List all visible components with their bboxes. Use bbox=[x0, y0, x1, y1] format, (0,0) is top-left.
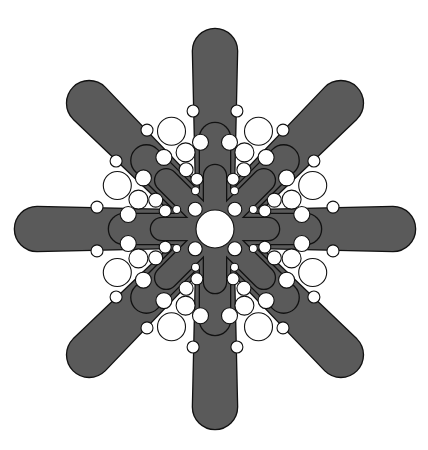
gap-circle bbox=[235, 296, 254, 315]
side-circle bbox=[110, 291, 122, 303]
side-circle bbox=[327, 201, 339, 213]
side-circle bbox=[91, 245, 103, 257]
gap-circle bbox=[192, 187, 200, 195]
gap-circle bbox=[249, 245, 257, 253]
gap-circle bbox=[103, 172, 131, 200]
side-circle bbox=[222, 308, 238, 324]
gap-circle bbox=[149, 193, 163, 207]
gap-circle bbox=[282, 190, 301, 209]
gap-circle bbox=[173, 245, 181, 253]
gap-circle bbox=[282, 249, 301, 268]
side-circle bbox=[279, 170, 295, 186]
gap-circle bbox=[245, 117, 273, 145]
gap-circle bbox=[299, 259, 327, 287]
side-circle bbox=[277, 322, 289, 334]
gap-circle bbox=[231, 187, 239, 195]
side-circle bbox=[294, 236, 310, 252]
side-circle bbox=[91, 201, 103, 213]
gap-circle bbox=[158, 117, 186, 145]
gap-circle bbox=[259, 205, 271, 217]
gap-circle bbox=[179, 163, 193, 177]
side-circle bbox=[222, 134, 238, 150]
side-circle bbox=[120, 207, 136, 223]
gap-circle bbox=[129, 190, 148, 209]
star-canvas bbox=[0, 0, 428, 450]
gap-circle bbox=[237, 163, 251, 177]
side-circle bbox=[279, 272, 295, 288]
gap-circle bbox=[176, 143, 195, 162]
side-circle bbox=[231, 105, 243, 117]
side-circle bbox=[156, 293, 172, 309]
gap-circle bbox=[259, 241, 271, 253]
gap-circle bbox=[237, 281, 251, 295]
gap-circle bbox=[227, 173, 239, 185]
side-circle bbox=[277, 124, 289, 136]
side-circle bbox=[120, 236, 136, 252]
gap-circle bbox=[129, 249, 148, 268]
gap-circle bbox=[103, 259, 131, 287]
side-circle bbox=[156, 149, 172, 165]
gap-circle bbox=[158, 313, 186, 341]
gap-circle bbox=[245, 313, 273, 341]
gap-circle bbox=[149, 251, 163, 265]
inner-ring-circle bbox=[188, 202, 202, 216]
side-circle bbox=[187, 105, 199, 117]
side-circle bbox=[308, 155, 320, 167]
side-circle bbox=[193, 134, 209, 150]
gap-circle bbox=[192, 263, 200, 271]
side-circle bbox=[258, 293, 274, 309]
inner-ring-circle bbox=[228, 242, 242, 256]
gap-circle bbox=[159, 205, 171, 217]
side-circle bbox=[308, 291, 320, 303]
gap-circle bbox=[179, 281, 193, 295]
side-circle bbox=[327, 245, 339, 257]
side-circle bbox=[294, 207, 310, 223]
side-circle bbox=[110, 155, 122, 167]
side-circle bbox=[258, 149, 274, 165]
gap-circle bbox=[267, 251, 281, 265]
side-circle bbox=[231, 341, 243, 353]
gap-circle bbox=[299, 172, 327, 200]
gap-circle bbox=[176, 296, 195, 315]
side-circle bbox=[187, 341, 199, 353]
inner-ring-circle bbox=[228, 202, 242, 216]
gap-circle bbox=[227, 273, 239, 285]
side-circle bbox=[193, 308, 209, 324]
gap-circle bbox=[231, 263, 239, 271]
side-circle bbox=[141, 124, 153, 136]
gap-circle bbox=[267, 193, 281, 207]
gap-circle bbox=[173, 206, 181, 214]
gap-circle bbox=[249, 206, 257, 214]
gap-circle bbox=[191, 173, 203, 185]
side-circle bbox=[141, 322, 153, 334]
gap-circle bbox=[191, 273, 203, 285]
side-circle bbox=[135, 272, 151, 288]
gap-circle bbox=[235, 143, 254, 162]
side-circle bbox=[135, 170, 151, 186]
inner-ring-circle bbox=[188, 242, 202, 256]
center-circle bbox=[196, 210, 234, 248]
gap-circle bbox=[159, 241, 171, 253]
star-diagram: Eight-armed star with nested loops and w… bbox=[0, 0, 428, 450]
